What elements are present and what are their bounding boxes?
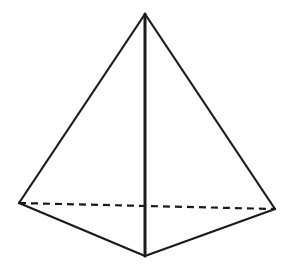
edge-left-right-hidden [19,203,275,209]
edge-front-right [145,209,275,256]
edge-apex-right [145,14,275,209]
pyramid-edges [19,14,275,256]
edge-left-front [19,203,145,256]
edge-apex-left [19,14,145,203]
pyramid-diagram [0,0,290,272]
